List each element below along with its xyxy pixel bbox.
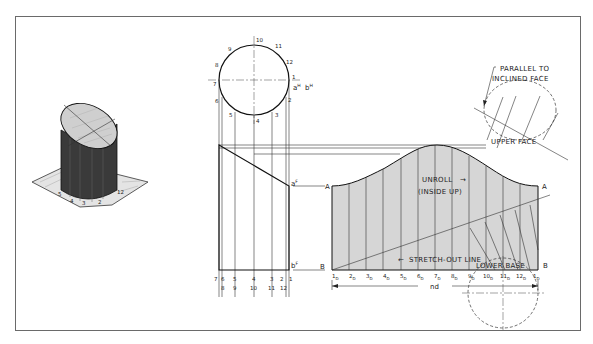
- front-label-5: 5: [233, 276, 237, 282]
- top-label-8: 8: [215, 62, 219, 68]
- top-label-4: 4: [256, 118, 260, 124]
- label-a-f: aF: [291, 179, 298, 188]
- front-label-1: 1: [289, 276, 293, 282]
- top-label-3: 3: [275, 112, 279, 118]
- parallel-label: PARALLEL TO: [500, 65, 550, 73]
- inclined-face-label: INCLINED FACE: [492, 75, 549, 83]
- top-view: 10 11 12 1 2 3 4 5 6 7 8 9 aH bH: [208, 36, 313, 124]
- dev-label-A-right: A: [542, 183, 547, 191]
- stretch-out-label: STRETCH-OUT LINE: [409, 256, 481, 264]
- upper-face: PARALLEL TO INCLINED FACE UPPER FACE: [474, 65, 568, 160]
- svg-text:7D: 7D: [434, 273, 441, 281]
- front-label-10: 10: [250, 285, 257, 291]
- lower-base-label: LOWER BASE: [476, 262, 525, 270]
- svg-text:10D: 10D: [483, 273, 493, 281]
- arrow-left-icon: ←: [398, 256, 404, 264]
- front-label-12: 12: [280, 285, 287, 291]
- svg-text:6D: 6D: [417, 273, 424, 281]
- top-label-1: 1: [292, 74, 296, 80]
- label-b-f: bF: [291, 261, 298, 270]
- pictorial-label-4: 4: [70, 198, 74, 204]
- svg-text:2D: 2D: [349, 273, 356, 281]
- top-label-2: 2: [288, 97, 292, 103]
- station-labels: 1D 2D 3D 4D 5D 6D 7D 8D 9D 10D 11D 12D 1…: [332, 273, 540, 281]
- front-label-2: 2: [280, 276, 284, 282]
- svg-text:5D: 5D: [400, 273, 407, 281]
- pictorial-label-3: 3: [82, 200, 86, 206]
- front-label-9: 9: [233, 285, 237, 291]
- svg-text:4D: 4D: [383, 273, 390, 281]
- dev-label-B-right: B: [543, 262, 548, 270]
- top-label-5: 5: [229, 112, 233, 118]
- pictorial-label-2: 2: [98, 199, 102, 205]
- front-label-8: 8: [221, 285, 225, 291]
- front-label-4: 4: [252, 276, 256, 282]
- front-label-3: 3: [270, 276, 274, 282]
- upper-face-label: UPPER FACE: [491, 138, 536, 146]
- top-label-9: 9: [228, 46, 232, 52]
- svg-text:8D: 8D: [451, 273, 458, 281]
- front-label-7: 7: [214, 276, 218, 282]
- isometric-cylinder: 5 4 3 2 12: [32, 94, 148, 207]
- label-a-h: aH: [293, 83, 301, 92]
- top-label-6: 6: [215, 98, 219, 104]
- label-b-h: bH: [305, 83, 313, 92]
- dev-label-A-left: A: [325, 183, 330, 191]
- svg-text:1D: 1D: [332, 273, 339, 281]
- nd-dimension: nd: [430, 283, 439, 291]
- arrow-right-icon: →: [460, 176, 466, 184]
- top-label-12: 12: [286, 59, 293, 65]
- pictorial-label-12: 12: [117, 189, 124, 195]
- unroll-label: UNROLL: [422, 176, 452, 184]
- svg-text:11D: 11D: [500, 273, 510, 281]
- top-label-10: 10: [256, 37, 263, 43]
- top-label-7: 7: [213, 81, 217, 87]
- dev-label-B-left: B: [320, 263, 325, 271]
- pictorial-label-5: 5: [58, 191, 62, 197]
- top-label-11: 11: [275, 43, 282, 49]
- svg-text:9D: 9D: [468, 273, 475, 281]
- svg-text:3D: 3D: [366, 273, 373, 281]
- technical-drawing: 5 4 3 2 12 10 11 12 1 2 3 4 5 6 7 8 9 aH…: [0, 0, 593, 344]
- inside-up-label: (INSIDE UP): [418, 188, 462, 196]
- front-label-11: 11: [268, 285, 275, 291]
- front-label-6: 6: [221, 276, 225, 282]
- svg-text:12D: 12D: [516, 273, 526, 281]
